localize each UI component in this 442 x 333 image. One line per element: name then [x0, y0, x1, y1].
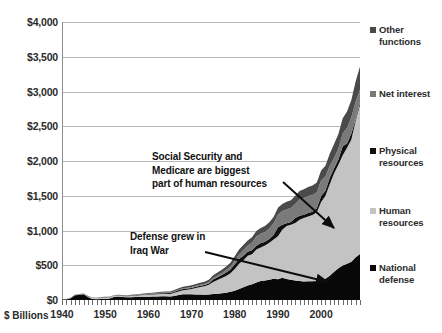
legend-item[interactable]: Physical resources — [370, 145, 424, 168]
x-axis-tick — [118, 300, 119, 305]
x-axis-tick-label: 1960 — [137, 308, 160, 320]
x-axis-tick — [157, 300, 158, 305]
legend-swatch-icon — [370, 208, 376, 214]
x-axis-tick-label: 1980 — [223, 308, 246, 320]
x-axis-tick — [205, 300, 206, 305]
x-axis-tick — [127, 300, 128, 305]
legend-item-label: Human resources — [379, 205, 424, 228]
x-axis-tick — [131, 300, 132, 305]
x-axis-tick — [252, 300, 253, 305]
x-axis-tick — [110, 300, 111, 305]
x-axis-tick — [256, 300, 257, 305]
x-axis-tick — [243, 300, 244, 305]
x-axis-tick — [114, 300, 115, 305]
x-axis-tick — [213, 300, 214, 305]
x-axis-tick — [62, 300, 63, 305]
x-axis-tick — [66, 300, 67, 305]
stacked-area-chart: $4,000$3,500$3,000$2,500$2,000$1,500$1,0… — [0, 0, 442, 333]
x-axis-tick — [347, 300, 348, 305]
y-axis-label-group: $4,000$3,500$3,000$2,500$2,000$1,500$1,0… — [0, 0, 58, 333]
legend-swatch-icon — [370, 27, 376, 33]
x-axis-tick — [179, 300, 180, 305]
x-axis-tick — [325, 300, 326, 305]
x-axis-tick — [140, 300, 141, 305]
legend-item-label: Physical resources — [379, 145, 424, 168]
x-axis-tick-label: 1940 — [50, 308, 73, 320]
x-axis-tick — [166, 300, 167, 305]
x-axis-tick — [248, 300, 249, 305]
x-axis-tick — [304, 300, 305, 305]
x-axis-tick — [343, 300, 344, 305]
y-axis-tick-label: $2,500 — [27, 120, 58, 132]
x-axis-tick-label: 2000 — [309, 308, 332, 320]
x-axis-tick-label: 1950 — [94, 308, 117, 320]
x-axis-tick — [144, 300, 145, 305]
x-axis-tick — [239, 300, 240, 305]
x-axis-tick — [265, 300, 266, 305]
legend-item[interactable]: Other functions — [370, 24, 421, 47]
x-axis-tick — [317, 300, 318, 305]
x-axis-tick — [200, 300, 201, 305]
annotation-human-resources: Social Security and Medicare are biggest… — [152, 150, 267, 191]
x-axis-tick — [84, 300, 85, 305]
x-axis-tick — [291, 300, 292, 305]
x-axis-tick — [122, 300, 123, 305]
legend-item-label: Net interest — [379, 88, 430, 100]
x-axis-tick — [230, 300, 231, 305]
legend-swatch-icon — [370, 148, 376, 154]
x-axis-tick — [278, 300, 279, 305]
x-axis-tick — [295, 300, 296, 305]
axis-units-label: $ Billions — [4, 310, 48, 321]
legend-item[interactable]: Net interest — [370, 88, 430, 100]
x-axis-tick — [334, 300, 335, 305]
x-axis-tick — [308, 300, 309, 305]
x-axis-tick — [226, 300, 227, 305]
y-axis-tick-label: $1,000 — [27, 225, 58, 237]
x-axis-tick — [330, 300, 331, 305]
x-axis-tick — [105, 300, 106, 305]
x-axis-tick — [356, 300, 357, 305]
legend-item[interactable]: National defense — [370, 262, 416, 285]
x-axis-tick — [135, 300, 136, 305]
y-axis-tick-label: $3,500 — [27, 51, 58, 63]
x-axis-tick — [92, 300, 93, 305]
x-axis-tick — [161, 300, 162, 305]
x-axis-tick — [183, 300, 184, 305]
y-axis-tick-label: $4,000 — [27, 16, 58, 28]
x-axis-tick — [174, 300, 175, 305]
x-axis-tick — [235, 300, 236, 305]
x-axis-tick — [321, 300, 322, 305]
x-axis-tick — [282, 300, 283, 305]
x-axis-tick — [79, 300, 80, 305]
x-axis-tick — [187, 300, 188, 305]
x-axis-tick — [170, 300, 171, 305]
x-axis-tick — [153, 300, 154, 305]
legend-swatch-icon — [370, 265, 376, 271]
legend-item[interactable]: Human resources — [370, 205, 424, 228]
x-axis-tick — [192, 300, 193, 305]
x-axis-tick — [75, 300, 76, 305]
x-axis-tick — [209, 300, 210, 305]
x-axis-tick — [148, 300, 149, 305]
legend-item-label: National defense — [379, 262, 416, 285]
y-axis-tick-label: $500 — [35, 259, 58, 271]
x-axis-tick — [351, 300, 352, 305]
y-axis-tick-label: $2,000 — [27, 155, 58, 167]
x-axis-tick — [101, 300, 102, 305]
x-axis-tick — [71, 300, 72, 305]
x-axis-tick — [274, 300, 275, 305]
x-axis-tick — [261, 300, 262, 305]
y-axis-tick-label: $3,000 — [27, 86, 58, 98]
chart-legend: Other functionsNet interestPhysical reso… — [370, 0, 442, 333]
x-axis-tick — [269, 300, 270, 305]
x-axis-tick — [312, 300, 313, 305]
legend-swatch-icon — [370, 91, 376, 97]
x-axis-tick-label: 1990 — [266, 308, 289, 320]
legend-item-label: Other functions — [379, 24, 421, 47]
x-axis-tick — [338, 300, 339, 305]
x-axis-tick — [217, 300, 218, 305]
x-axis-tick — [88, 300, 89, 305]
x-axis-tick — [300, 300, 301, 305]
y-axis-tick-label: $0 — [47, 294, 58, 306]
x-axis-tick — [196, 300, 197, 305]
